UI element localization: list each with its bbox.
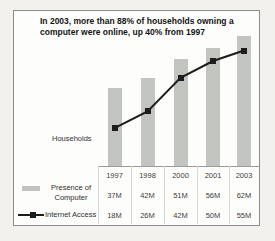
computer-value-cell-1997: 37M <box>99 191 131 200</box>
internet-value-cell-2000: 42M <box>165 211 197 220</box>
year-cell-2003: 2003 <box>228 171 260 180</box>
legend-label-internet-access: Internet Access <box>45 210 105 219</box>
line-marker-2001 <box>210 58 216 64</box>
computer-value-cell-2000: 51M <box>165 191 197 200</box>
chart-figure: In 2003, more than 88% of households own… <box>13 10 260 226</box>
chart-title: In 2003, more than 88% of households own… <box>40 16 254 38</box>
legend-label-presence-of-computer: Presence of Computer <box>43 183 99 203</box>
table-top-border <box>98 166 259 167</box>
line-marker-2003 <box>241 48 247 54</box>
bar-legend-swatch <box>22 186 40 191</box>
bar-1998 <box>141 78 155 166</box>
line-legend-swatch <box>18 211 44 218</box>
y-axis-label: Households <box>52 134 90 143</box>
bar-2003 <box>237 36 251 166</box>
internet-value-cell-1998: 26M <box>132 211 164 220</box>
year-cell-2001: 2001 <box>197 171 229 180</box>
year-cell-2000: 2000 <box>165 171 197 180</box>
computer-value-cell-1998: 42M <box>132 191 164 200</box>
bar-2001 <box>206 48 220 166</box>
internet-value-cell-2001: 50M <box>197 211 229 220</box>
line-marker-1998 <box>145 108 151 114</box>
line-marker-1997 <box>112 125 118 131</box>
computer-value-cell-2003: 62M <box>228 191 260 200</box>
computer-value-cell-2001: 56M <box>197 191 229 200</box>
year-cell-1998: 1998 <box>132 171 164 180</box>
line-marker-2000 <box>178 75 184 81</box>
line-legend-marker-icon <box>30 212 36 218</box>
year-cell-1997: 1997 <box>99 171 131 180</box>
screenshot-canvas: { "figure": { "title": "In 2003, more th… <box>0 0 275 241</box>
internet-value-cell-2003: 55M <box>228 211 260 220</box>
